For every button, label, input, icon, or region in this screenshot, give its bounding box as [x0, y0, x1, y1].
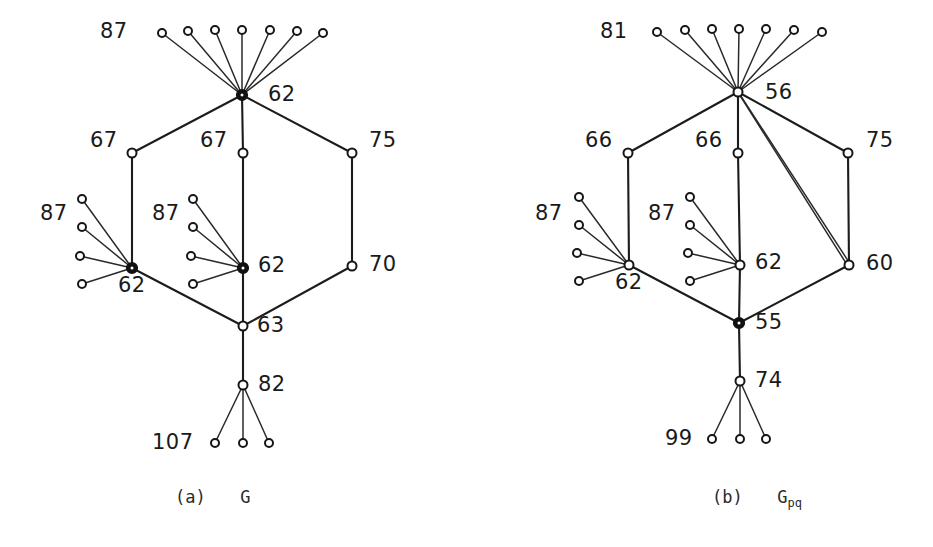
- label-b-right-low: 60: [866, 253, 894, 274]
- graph-node-leaf: [818, 28, 826, 36]
- caption-b-index: (b): [712, 487, 743, 507]
- label-a-center-hub: 62: [258, 255, 286, 276]
- label-a-left-star-leaves: 87: [40, 203, 68, 224]
- edge: [628, 153, 629, 265]
- edge: [739, 323, 740, 381]
- caption-b-name: G: [777, 487, 787, 507]
- graph-node-leaf: [708, 25, 716, 33]
- edge: [242, 30, 270, 95]
- graph-node-leaf: [735, 25, 743, 33]
- edge: [738, 153, 740, 265]
- figure-root: 876267677587876270626382107 815666667587…: [0, 0, 933, 547]
- graph-node-labeled: [625, 261, 634, 270]
- label-a-bottom-leaves: 107: [152, 432, 194, 453]
- edge: [193, 268, 243, 284]
- label-b-stem: 74: [755, 370, 783, 391]
- label-b-left-star-leaves: 87: [535, 203, 563, 224]
- label-b-bottom-leaves: 99: [665, 428, 693, 449]
- edge: [188, 31, 242, 95]
- label-b-center-hub: 62: [755, 252, 783, 273]
- label-a-left-hub: 62: [118, 275, 146, 296]
- edges-group-panel-b: [577, 29, 850, 439]
- edge: [242, 95, 352, 153]
- edge: [739, 265, 740, 323]
- label-a-center-mid: 67: [200, 130, 228, 151]
- graph-node-leaf: [319, 29, 327, 37]
- label-b-junction: 55: [755, 312, 783, 333]
- graph-node-leaf: [78, 280, 86, 288]
- edges-group-panel-a: [80, 30, 352, 443]
- graph-node-labeled: [348, 262, 357, 271]
- caption-b-subscript: pq: [787, 496, 801, 510]
- graph-node-labeled: [734, 149, 743, 158]
- edge-parallel: [738, 92, 850, 264]
- graph-node-labeled: [348, 149, 357, 158]
- label-b-left-mid: 66: [585, 130, 613, 151]
- graph-node-labeled: [734, 88, 743, 97]
- graph-node-leaf: [184, 27, 192, 35]
- graph-node-leaf: [78, 195, 86, 203]
- label-b-center-star-leaves: 87: [648, 203, 676, 224]
- nodes-group-panel-a: [76, 26, 357, 447]
- label-a-center-star-leaves: 87: [152, 203, 180, 224]
- graph-node-leaf: [575, 193, 583, 201]
- graph-node-leaf: [189, 195, 197, 203]
- edge: [738, 92, 848, 153]
- label-a-right-mid: 75: [369, 130, 397, 151]
- edge: [242, 95, 243, 153]
- graph-node-labeled: [239, 264, 247, 272]
- graph-node-labeled: [238, 91, 246, 99]
- graph-node-labeled: [736, 377, 745, 386]
- graph-node-labeled: [624, 149, 633, 158]
- label-b-left-hub: 62: [615, 272, 643, 293]
- graph-node-leaf: [266, 26, 274, 34]
- label-a-junction: 63: [257, 315, 285, 336]
- caption-panel-b: (b) Gpq: [712, 488, 802, 513]
- graph-node-leaf: [686, 221, 694, 229]
- graph-node-leaf: [575, 277, 583, 285]
- nodes-group-panel-b: [573, 25, 854, 443]
- graph-node-leaf: [265, 439, 273, 447]
- edge: [162, 33, 242, 95]
- graph-node-leaf: [78, 223, 86, 231]
- graph-node-leaf: [158, 29, 166, 37]
- graph-node-labeled: [239, 381, 248, 390]
- graph-node-labeled: [239, 149, 248, 158]
- graph-node-labeled: [239, 322, 248, 331]
- graph-node-leaf: [681, 26, 689, 34]
- label-b-hub-top: 56: [765, 82, 793, 103]
- graph-node-leaf: [187, 252, 195, 260]
- graph-node-leaf: [238, 26, 246, 34]
- edge: [132, 268, 243, 326]
- graph-node-leaf: [76, 252, 84, 260]
- label-b-top-leaves: 81: [600, 21, 628, 42]
- graph-node-leaf: [762, 25, 770, 33]
- edge: [848, 153, 849, 265]
- caption-a-name: G: [240, 487, 250, 507]
- graph-node-leaf: [575, 221, 583, 229]
- edge: [215, 385, 243, 443]
- edge: [629, 265, 739, 323]
- graph-node-leaf: [211, 26, 219, 34]
- graph-node-labeled: [735, 319, 743, 327]
- label-b-right-mid: 75: [866, 130, 894, 151]
- graph-node-leaf: [239, 439, 247, 447]
- edge: [690, 265, 740, 281]
- graph-node-leaf: [573, 249, 581, 257]
- edge: [738, 29, 739, 92]
- graph-node-leaf: [762, 435, 770, 443]
- graph-node-leaf: [653, 28, 661, 36]
- graph-node-labeled: [845, 261, 854, 270]
- graph-node-leaf: [189, 223, 197, 231]
- graph-node-leaf: [684, 249, 692, 257]
- edge: [685, 30, 738, 92]
- edge: [712, 381, 740, 439]
- graph-node-leaf: [708, 435, 716, 443]
- label-a-stem: 82: [258, 374, 286, 395]
- label-a-left-mid: 67: [90, 130, 118, 151]
- label-a-right-low: 70: [369, 254, 397, 275]
- graph-node-leaf: [790, 26, 798, 34]
- graph-node-labeled: [736, 261, 745, 270]
- label-b-center-mid: 66: [695, 130, 723, 151]
- graph-node-leaf: [293, 27, 301, 35]
